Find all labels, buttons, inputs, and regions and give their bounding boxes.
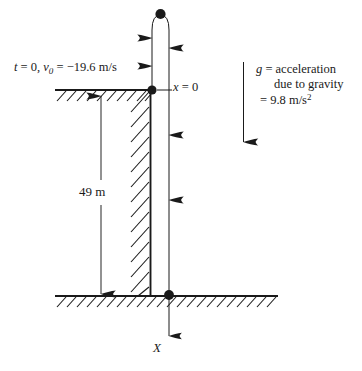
trajectory: [152, 15, 169, 336]
cliff-top: [55, 90, 151, 101]
origin-value: 0: [192, 80, 198, 94]
apex-dot: [155, 9, 165, 19]
physics-diagram: [0, 0, 362, 371]
gravity-label-line-2: due to gravity: [256, 77, 343, 92]
cliff-wall: [131, 90, 151, 296]
cliff-wall-hatching: [131, 92, 149, 296]
cliff-top-hatching: [57, 91, 151, 101]
height-label: 49 m: [79, 184, 105, 199]
initial-conditions-label: t = 0, v0 = −19.6 m/s: [14, 60, 117, 76]
height-unit: m: [95, 184, 105, 199]
initial-time-value: 0: [31, 60, 37, 74]
ground-dot: [164, 290, 174, 300]
initial-velocity-value: −19.6 m/s: [67, 60, 117, 74]
gravity-label-line-3: = 9.8 m/s2: [256, 92, 343, 108]
origin-label: x = 0: [173, 80, 198, 95]
gravity-label: g = acceleration due to gravity = 9.8 m/…: [256, 62, 343, 107]
x-axis-label: X: [153, 340, 161, 355]
origin-dot: [147, 85, 156, 94]
height-value: 49: [79, 184, 92, 199]
trajectory-path: [152, 15, 169, 296]
gravity-label-line-1: g = acceleration: [256, 62, 336, 76]
